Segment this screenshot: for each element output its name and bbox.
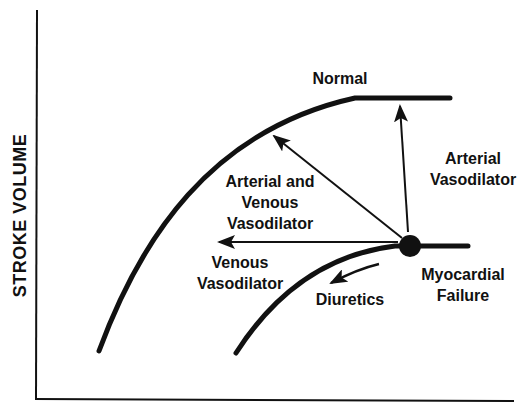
y-axis-label: STROKE VOLUME	[10, 126, 31, 306]
diuretics-label: Diuretics	[300, 289, 400, 310]
y-axis	[36, 10, 37, 400]
myocardial-failure-label: Myocardial Failure	[408, 264, 518, 306]
normal-curve-label: Normal	[300, 68, 380, 89]
arterial-vasodilator-label: Arterial Vasodilator	[418, 148, 528, 190]
myocardial-failure-point	[399, 235, 421, 257]
diuretics-arrow	[331, 264, 379, 283]
venous-vasodilator-label: Venous Vasodilator	[185, 252, 295, 294]
x-axis	[35, 399, 514, 401]
arterial-and-venous-vasodilator-label: Arterial and Venous Vasodilator	[200, 171, 340, 234]
arterial-vasodilator-arrow	[400, 106, 408, 232]
